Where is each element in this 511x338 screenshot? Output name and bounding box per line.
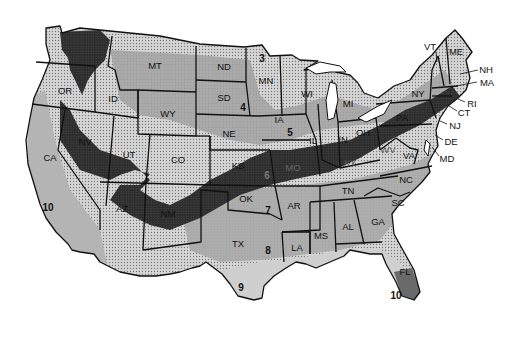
zone-label-9: 9: [238, 282, 244, 293]
state-label-nd: ND: [217, 61, 231, 72]
state-label-la: LA: [291, 242, 303, 253]
state-label-vt: VT: [424, 41, 436, 52]
state-label-ne: NE: [222, 128, 235, 139]
state-label-az: AZ: [116, 203, 128, 214]
state-label-ms: MS: [314, 230, 328, 241]
state-label-ia: IA: [275, 114, 285, 125]
state-label-tn: TN: [342, 185, 355, 196]
state-label-tx: TX: [232, 238, 245, 249]
state-label-ky: KY: [344, 157, 357, 168]
state-label-nj: NJ: [449, 120, 461, 131]
leader-line-nj: [440, 121, 447, 124]
hardiness-zone-map: OR ID MT ND SD WY NE NV UT CO CA KS MN I…: [0, 0, 511, 338]
zone-label-4: 4: [240, 102, 246, 113]
state-label-ks: KS: [232, 160, 245, 171]
state-label-nh: NH: [479, 64, 493, 75]
zone-label-3: 3: [259, 53, 265, 64]
state-label-id: ID: [108, 93, 118, 104]
state-label-ut: UT: [123, 149, 136, 160]
zone-label-10-west: 10: [42, 202, 54, 213]
state-label-nv: NV: [78, 136, 92, 147]
state-label-wy: WY: [160, 108, 176, 119]
zone-label-7: 7: [265, 205, 271, 216]
state-label-de: DE: [444, 136, 457, 147]
state-label-mi: MI: [343, 98, 354, 109]
state-label-ma: MA: [480, 77, 495, 88]
state-label-ct: CT: [458, 107, 471, 118]
state-label-sc: SC: [391, 197, 404, 208]
state-label-ok: OK: [239, 193, 253, 204]
state-label-sd: SD: [217, 92, 230, 103]
state-label-ga: GA: [371, 216, 385, 227]
state-label-il: IL: [309, 135, 317, 146]
state-label-nc: NC: [399, 174, 413, 185]
zone-label-5: 5: [287, 127, 293, 138]
leader-line-ct: [449, 106, 457, 111]
state-label-mt: MT: [148, 60, 162, 71]
state-label-in: IN: [338, 134, 348, 145]
state-label-va: VA: [403, 150, 416, 161]
state-label-ny: NY: [411, 88, 425, 99]
zone-label-6: 6: [264, 170, 270, 181]
state-label-wi: WI: [301, 88, 313, 99]
state-label-oh: OH: [356, 127, 370, 138]
state-label-mn: MN: [259, 75, 274, 86]
state-label-co: CO: [171, 154, 185, 165]
state-label-mo: MO: [285, 162, 300, 173]
state-label-fl: FL: [399, 266, 410, 277]
state-label-md: MD: [440, 153, 455, 164]
state-label-nm: NM: [161, 208, 176, 219]
state-label-ar: AR: [287, 200, 300, 211]
state-label-or: OR: [58, 85, 72, 96]
state-label-al: AL: [342, 221, 354, 232]
state-label-me: ME: [449, 46, 463, 57]
zone-label-10-florida: 10: [390, 290, 402, 301]
leader-line-ri: [458, 99, 465, 102]
state-label-pa: PA: [396, 112, 409, 123]
state-label-ca: CA: [43, 152, 57, 163]
state-label-wv: WV: [380, 144, 396, 155]
zone-label-8: 8: [265, 245, 271, 256]
